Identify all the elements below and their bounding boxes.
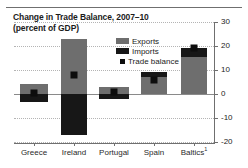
legend-item-exports: Exports xyxy=(116,36,179,46)
x-axis-label-portugal: Portugal xyxy=(99,148,129,157)
x-axis-label-ireland: Ireland xyxy=(62,148,86,157)
x-axis-label-baltics: Baltics1 xyxy=(181,148,208,157)
x-axis-label-spain: Spain xyxy=(144,148,164,157)
legend-item-trade-balance: Trade balance xyxy=(116,56,179,66)
legend-label-trade-balance: Trade balance xyxy=(128,57,179,66)
legend-marker-icon-trade-balance xyxy=(120,59,125,64)
bar-imports xyxy=(61,94,87,135)
x-axis-tick xyxy=(74,143,75,146)
x-axis-tick xyxy=(194,143,195,146)
x-axis-tick xyxy=(114,143,115,146)
chart-figure: Change in Trade Balance, 2007–10 (percen… xyxy=(0,0,248,168)
y-axis-tick-label: -10 xyxy=(221,114,233,122)
legend-item-imports: Imports xyxy=(116,46,179,56)
bar-group xyxy=(174,22,214,142)
y-axis-tick xyxy=(215,118,218,119)
figure-top-rule xyxy=(6,7,242,8)
y-axis-tick xyxy=(215,94,218,95)
y-axis-tick-label: -20 xyxy=(221,138,233,146)
trade-balance-marker xyxy=(191,45,198,52)
y-axis-tick xyxy=(215,70,218,71)
y-axis-tick-label: 20 xyxy=(221,42,230,50)
y-axis-tick-label: 30 xyxy=(221,18,230,26)
y-axis-tick xyxy=(215,142,218,143)
legend-label-imports: Imports xyxy=(132,47,159,56)
x-axis-tick xyxy=(34,143,35,146)
y-axis-line xyxy=(214,22,215,143)
trade-balance-marker xyxy=(111,88,118,95)
y-axis-tick-label: 10 xyxy=(221,66,230,74)
legend-swatch-icon-exports xyxy=(116,38,129,44)
y-axis-tick xyxy=(215,46,218,47)
trade-balance-marker xyxy=(71,71,78,78)
y-axis-tick xyxy=(215,22,218,23)
chart-legend: Exports Imports Trade balance xyxy=(116,36,179,66)
legend-swatch-icon-imports xyxy=(116,48,129,54)
trade-balance-marker xyxy=(31,89,38,96)
x-axis-tick xyxy=(154,143,155,146)
bar-group xyxy=(14,22,54,142)
bar-exports xyxy=(181,57,207,94)
bar-exports xyxy=(61,39,87,94)
footnote-marker: 1 xyxy=(204,146,207,152)
y-axis-tick-label: 0 xyxy=(221,90,225,98)
plot-area xyxy=(14,22,214,142)
trade-balance-marker xyxy=(151,76,158,83)
x-axis-label-greece: Greece xyxy=(21,148,47,157)
bar-group xyxy=(54,22,94,142)
legend-label-exports: Exports xyxy=(132,37,159,46)
